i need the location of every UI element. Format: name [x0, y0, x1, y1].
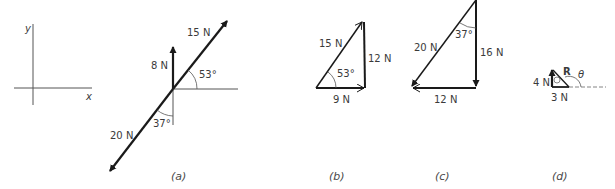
- label-9n-b: 9 N: [333, 94, 350, 105]
- label-3n-d: 3 N: [551, 92, 568, 103]
- label-37-deg-c: 37°: [455, 29, 473, 40]
- angle-phi-mark: [554, 77, 560, 83]
- label-53-deg: 53°: [199, 69, 217, 80]
- label-12n-b: 12 N: [368, 53, 391, 64]
- caption-d: (d): [552, 170, 568, 183]
- label-16n-c: 16 N: [480, 47, 503, 58]
- label-37-deg: 37°: [153, 118, 171, 129]
- label-4n-d: 4 N: [533, 77, 550, 88]
- label-theta: θ: [578, 69, 584, 80]
- caption-b: (b): [329, 170, 345, 183]
- y-axis-label: y: [24, 23, 32, 34]
- panel-b: 15 N 12 N 53° 9 N (b): [316, 22, 391, 183]
- angle-37-arc: [157, 110, 173, 116]
- label-15n-b: 15 N: [319, 38, 342, 49]
- force-diagrams: y x 15 N 8 N 53° 37° 20 N (a) 15 N 12 N …: [0, 0, 615, 189]
- vector-12n: [364, 22, 365, 88]
- label-53-deg-b: 53°: [337, 68, 355, 79]
- x-axis-label: x: [85, 91, 92, 102]
- label-20n-c: 20 N: [414, 42, 437, 53]
- label-8n: 8 N: [151, 60, 168, 71]
- panel-d: R θ 4 N 3 N (d): [533, 66, 606, 183]
- panel-a: 15 N 8 N 53° 37° 20 N (a): [110, 21, 238, 183]
- angle-53-arc: [188, 70, 197, 89]
- angle-53-arc-b: [328, 72, 336, 88]
- label-15n: 15 N: [187, 27, 210, 38]
- panel-c: 37° 20 N 16 N 12 N (c): [412, 0, 503, 183]
- coordinate-axes: y x: [14, 23, 92, 105]
- label-r: R: [563, 66, 571, 77]
- caption-a: (a): [171, 170, 186, 183]
- caption-c: (c): [435, 170, 450, 183]
- label-12n-c: 12 N: [434, 94, 457, 105]
- angle-37-arc-c: [460, 23, 476, 28]
- label-20n: 20 N: [110, 130, 133, 141]
